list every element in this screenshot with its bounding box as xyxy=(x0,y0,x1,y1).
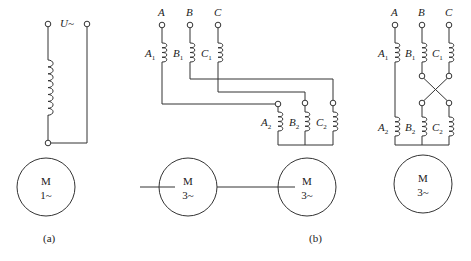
coil-name: A xyxy=(378,47,385,59)
coil-b1-icon xyxy=(422,43,427,62)
terminal-icon xyxy=(45,140,51,146)
motor-label-line2: 3~ xyxy=(408,187,438,198)
coil-label-c2: C2 xyxy=(432,122,443,136)
motor-label-line2: 3~ xyxy=(173,190,203,201)
motor-label-line1: M xyxy=(31,176,61,187)
figure-c-reversed-phases xyxy=(392,22,454,213)
supply-voltage-label: U~ xyxy=(60,18,74,29)
coil-sub: 2 xyxy=(268,123,272,131)
coil-sub: 1 xyxy=(180,54,184,62)
winding-coil-icon xyxy=(48,60,53,115)
motor-symbol-icon xyxy=(17,158,75,216)
terminal-icon xyxy=(45,21,51,27)
coil-a2-icon xyxy=(395,117,400,136)
coil-sub: 2 xyxy=(323,123,327,131)
coil-sub: 1 xyxy=(412,54,416,62)
coil-a1-icon xyxy=(395,43,400,62)
terminal-icon xyxy=(215,22,221,28)
terminal-icon xyxy=(275,101,281,107)
coil-sub: 1 xyxy=(208,54,212,62)
coil-sub: 1 xyxy=(385,54,389,62)
terminal-icon xyxy=(330,100,336,106)
coil-sub: 1 xyxy=(152,54,156,62)
phase-label-b: B xyxy=(186,7,193,18)
caption-b: (b) xyxy=(309,233,322,244)
coil-label-b2: B2 xyxy=(405,122,415,136)
coil-sub: 2 xyxy=(412,128,416,136)
coil-name: B xyxy=(405,47,412,59)
wire-b1-to-c2 xyxy=(190,62,333,100)
phase-label-a: A xyxy=(391,7,398,18)
phase-label-c: C xyxy=(214,7,221,18)
coil-label-b2: B2 xyxy=(289,117,299,131)
motor-label-line2: 1~ xyxy=(31,190,61,201)
terminal-icon xyxy=(159,22,165,28)
coil-c2-icon xyxy=(333,112,338,131)
terminal-icon xyxy=(392,22,398,28)
phase-label-a: A xyxy=(158,7,165,18)
coil-label-a2: A2 xyxy=(261,117,271,131)
terminal-icon xyxy=(446,22,452,28)
coil-label-c1: C1 xyxy=(432,48,443,62)
coil-label-b1: B1 xyxy=(405,48,415,62)
phase-label-c: C xyxy=(445,7,452,18)
coil-label-a1: A1 xyxy=(145,48,155,62)
coil-sub: 2 xyxy=(296,123,300,131)
wire-c1-to-b2 xyxy=(218,62,305,100)
diagram-canvas: U~ M 1~ (a) A B C A1 B1 C1 A2 B2 C2 M 3~… xyxy=(0,0,471,261)
terminal-icon xyxy=(302,100,308,106)
phase-label-b: B xyxy=(418,7,425,18)
coil-label-c1: C1 xyxy=(201,48,212,62)
motor-label-line1: M xyxy=(173,176,203,187)
coil-name: A xyxy=(145,47,152,59)
coil-b2-icon xyxy=(305,112,310,131)
coil-name: A xyxy=(261,116,268,128)
coil-name: B xyxy=(173,47,180,59)
coil-label-c2: C2 xyxy=(316,117,327,131)
coil-label-b1: B1 xyxy=(173,48,183,62)
terminal-icon xyxy=(84,21,90,27)
coil-name: B xyxy=(289,116,296,128)
coil-c2-icon xyxy=(449,117,454,136)
terminal-icon xyxy=(419,73,425,79)
coil-sub: 2 xyxy=(385,128,389,136)
coil-a2-icon xyxy=(278,112,283,131)
coil-label-a1: A1 xyxy=(378,48,388,62)
coil-b1-icon xyxy=(190,43,195,62)
coil-c1-icon xyxy=(218,43,223,62)
coil-a1-icon xyxy=(162,43,167,62)
coil-b2-icon xyxy=(422,117,427,136)
terminal-icon xyxy=(187,22,193,28)
motor-label-line1: M xyxy=(292,176,322,187)
motor-symbol-icon xyxy=(394,155,452,213)
caption-a: (a) xyxy=(43,233,55,244)
wiring-diagram-svg xyxy=(0,0,471,261)
motor-label-line2: 3~ xyxy=(292,190,322,201)
terminal-icon xyxy=(446,100,452,106)
coil-c1-icon xyxy=(449,43,454,62)
coil-name: B xyxy=(405,121,412,133)
motor-label-line1: M xyxy=(408,173,438,184)
terminal-icon xyxy=(419,22,425,28)
coil-label-a2: A2 xyxy=(378,122,388,136)
terminal-icon xyxy=(419,100,425,106)
coil-name: A xyxy=(378,121,385,133)
coil-sub: 1 xyxy=(439,54,443,62)
coil-sub: 2 xyxy=(439,128,443,136)
wire xyxy=(51,27,87,143)
terminal-icon xyxy=(446,73,452,79)
